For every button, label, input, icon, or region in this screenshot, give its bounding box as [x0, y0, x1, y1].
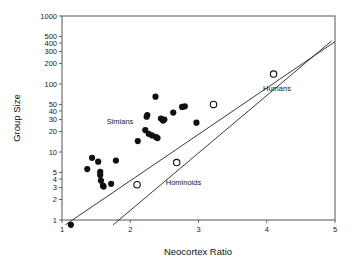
data-point-open [270, 71, 276, 77]
data-point-filled [68, 222, 74, 228]
scatter-plot-figure: 1234510203040501002003004005001000 12345… [0, 0, 351, 268]
y-tick-label: 300 [44, 47, 57, 56]
series-humans [270, 71, 276, 77]
y-tick-label: 2 [53, 195, 57, 204]
y-tick-label: 1 [53, 216, 57, 225]
data-point-filled [113, 157, 119, 163]
y-axis-title: Group Size [11, 94, 22, 142]
data-point-filled [95, 159, 101, 165]
data-point-filled [161, 116, 167, 122]
y-tick-label: 1000 [40, 12, 57, 21]
data-point-filled [152, 94, 158, 100]
y-tick-label: 30 [49, 115, 57, 124]
annotation-hominoids: Hominoids [166, 178, 202, 187]
x-tick-label: 4 [265, 225, 269, 234]
plot-canvas: 1234510203040501002003004005001000 12345… [0, 0, 351, 268]
y-tick-label: 5 [53, 168, 57, 177]
data-point-filled [144, 112, 150, 118]
data-point-filled [108, 181, 114, 187]
x-axis-title: Neocortex Ratio [164, 246, 232, 257]
annotation-simians: Simians [107, 117, 134, 126]
y-tick-label: 500 [44, 32, 57, 41]
y-tick-label: 50 [49, 100, 57, 109]
data-point-filled [84, 166, 90, 172]
x-tick-label: 3 [196, 225, 200, 234]
x-tick-label: 2 [128, 225, 132, 234]
y-tick-label: 3 [53, 183, 57, 192]
x-tick-label: 5 [333, 225, 337, 234]
y-tick-label: 200 [44, 59, 57, 68]
data-point-filled [97, 172, 103, 178]
data-point-filled [89, 155, 95, 161]
x-tick-label: 1 [60, 225, 64, 234]
y-tick-label: 100 [44, 80, 57, 89]
data-point-filled [154, 135, 160, 141]
data-point-open [173, 159, 179, 165]
data-point-open [210, 101, 216, 107]
data-point-filled [193, 120, 199, 126]
data-point-filled [101, 183, 107, 189]
data-point-filled [182, 103, 188, 109]
annotation-humans: Humans [263, 84, 291, 93]
y-tick-label: 20 [49, 127, 57, 136]
data-point-filled [135, 138, 141, 144]
y-tick-label: 10 [49, 148, 57, 157]
data-point-open [134, 182, 140, 188]
data-point-filled [170, 109, 176, 115]
